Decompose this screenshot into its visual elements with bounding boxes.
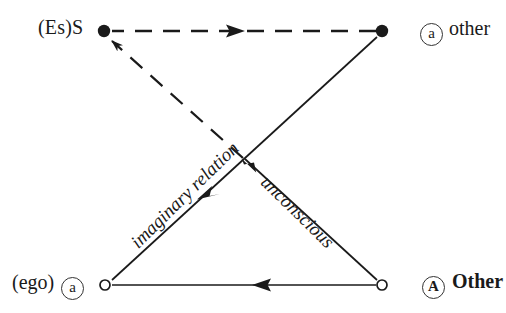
node-marker-s: [98, 25, 110, 37]
node-marker-a-capital-other: [377, 280, 387, 290]
schema-l-diagram: [0, 0, 506, 313]
edge-unconscious-arrowhead: [242, 159, 257, 173]
node-label-other-word: other: [449, 17, 490, 39]
node-label-s: (Es)S: [38, 17, 83, 37]
node-label-a-other: aother: [420, 18, 490, 46]
token-circled-a-ego: a: [61, 277, 84, 300]
edge-bottom-solid: [112, 279, 376, 292]
node-label-ego-a: (ego)a: [12, 272, 84, 300]
node-marker-ego-a: [100, 280, 110, 290]
edge-top-dashed: [112, 25, 376, 38]
token-circled-a-other: a: [420, 23, 443, 46]
node-label-a-capital-other: AOther: [422, 271, 503, 299]
node-label-s-text: (Es)S: [38, 16, 83, 38]
node-label-ego-word: (ego): [12, 271, 54, 293]
node-marker-a-other: [376, 25, 388, 37]
node-label-other-bold-word: Other: [452, 270, 503, 292]
token-circled-a-capital: A: [422, 276, 445, 299]
